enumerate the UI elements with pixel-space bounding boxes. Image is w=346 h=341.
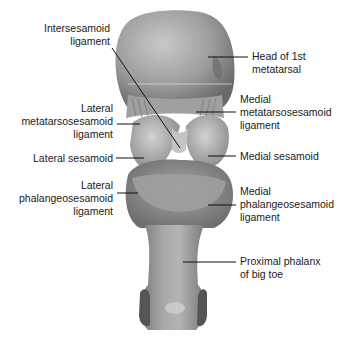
- label-proximal-phalanx-of-big-toe: Proximal phalanx of big toe: [240, 255, 321, 281]
- phalanx-base: [126, 160, 233, 228]
- label-medial-phalangeosesamoid-ligament: Medial phalangeosesamoid ligament: [240, 185, 334, 224]
- phalanx-shaft: [139, 225, 207, 330]
- label-head-of-1st-metatarsal: Head of 1st metatarsal: [252, 50, 306, 76]
- label-lateral-metatarsosesamoid-ligament: Lateral metatarsosesamoid ligament: [21, 102, 113, 141]
- label-lateral-sesamoid: Lateral sesamoid: [33, 152, 113, 165]
- label-intersesamoid-ligament: Intersesamoid ligament: [44, 22, 110, 48]
- label-medial-sesamoid: Medial sesamoid: [240, 150, 319, 163]
- label-lateral-phalangeosesamoid-ligament: Lateral phalangeosesamoid ligament: [19, 179, 113, 218]
- medial-sesamoid-shape: [186, 115, 229, 168]
- anatomy-diagram: Intersesamoid ligament Lateral metatarso…: [0, 0, 346, 341]
- label-medial-metatarsosesamoid-ligament: Medial metatarsosesamoid ligament: [240, 93, 332, 132]
- metatarsal-head: [116, 10, 235, 108]
